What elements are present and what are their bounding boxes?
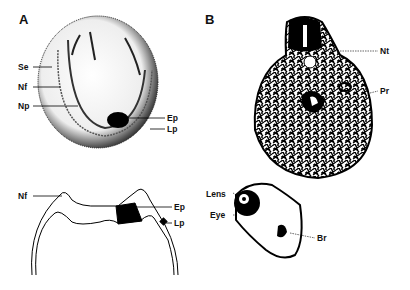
embryo-cross-section [32, 189, 178, 275]
label-ep: Ep [167, 114, 178, 123]
label-eye: Eye [210, 211, 225, 220]
panel-b-label: B [205, 12, 214, 27]
embryo-section-b [233, 17, 378, 258]
section-label-nf: Nf [18, 192, 27, 201]
embryo-top-view [33, 16, 165, 148]
label-lens: Lens [206, 190, 226, 199]
label-se: Se [18, 63, 28, 72]
section-label-lp: Lp [174, 219, 184, 228]
figure-illustrations [0, 0, 410, 290]
label-pr: Pr [380, 87, 389, 96]
panel-a-label: A [19, 12, 28, 27]
label-nt: Nt [380, 47, 389, 56]
label-np: Np [18, 102, 29, 111]
label-br: Br [317, 234, 326, 243]
label-lp: Lp [167, 125, 177, 134]
section-label-ep: Ep [174, 203, 185, 212]
label-nf: Nf [18, 83, 27, 92]
